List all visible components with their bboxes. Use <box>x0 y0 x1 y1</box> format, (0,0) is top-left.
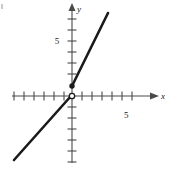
corner-mark <box>1 4 3 9</box>
y-axis-tick-label-5: 5 <box>55 36 60 46</box>
upper-branch-segment <box>72 13 108 86</box>
x-axis-name-label: x <box>160 91 165 101</box>
y-axis-name-label: y <box>76 4 81 14</box>
filled-point-marker <box>69 83 74 88</box>
x-axis-tick-label-5: 5 <box>124 110 129 120</box>
graph-figure: 5 x 5 y <box>0 0 169 170</box>
coordinate-plane-svg: 5 x 5 y <box>0 0 169 170</box>
y-axis: 5 y <box>55 3 81 163</box>
x-axis: 5 x <box>12 91 165 120</box>
lower-branch-segment <box>14 96 71 160</box>
x-axis-arrow-icon <box>150 92 159 99</box>
open-point-marker <box>69 93 74 98</box>
y-axis-arrow-icon <box>69 3 76 11</box>
